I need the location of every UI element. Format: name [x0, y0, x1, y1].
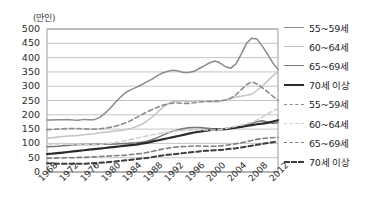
solid-line-icon [284, 27, 304, 28]
y-tick-label: 100 [14, 138, 40, 148]
legend-item-label: 60~64세 [309, 117, 349, 131]
line-chart: (만인) 050100150200250300350400450500 1968… [0, 0, 377, 211]
y-tick-label: 500 [14, 24, 40, 34]
solid-line-icon [284, 84, 304, 86]
solid-line-icon [284, 46, 304, 47]
legend-item[interactable]: 60~64세 [284, 37, 377, 56]
y-tick-label: 50 [14, 153, 40, 163]
legend-item[interactable]: 60~64세 [284, 114, 377, 133]
legend-item-label: 70세 이상 [309, 78, 350, 92]
dashed-line-icon [284, 161, 304, 163]
dashed-line-icon [284, 123, 304, 124]
legend-item[interactable]: 70세 이상 [284, 152, 377, 171]
legend-item[interactable]: 55~59세 [284, 95, 377, 114]
legend-item-label: 70세 이상 [309, 155, 350, 169]
y-tick-label: 350 [14, 67, 40, 77]
y-tick-label: 400 [14, 53, 40, 63]
solid-line-icon [284, 65, 304, 66]
y-tick-label: 250 [14, 96, 40, 106]
legend-item-label: 60~64세 [309, 40, 349, 54]
legend-item-label: 65~69세 [309, 136, 349, 150]
dashed-line-icon [284, 142, 304, 143]
legend-item-label: 55~59세 [309, 21, 349, 35]
legend-item-label: 65~69세 [309, 59, 349, 73]
legend-item[interactable]: 70세 이상 [284, 76, 377, 95]
y-tick-label: 300 [14, 81, 40, 91]
legend-item[interactable]: 65~69세 [284, 56, 377, 75]
y-tick-label: 200 [14, 110, 40, 120]
legend-item[interactable]: 65~69세 [284, 133, 377, 152]
legend-item[interactable]: 55~59세 [284, 18, 377, 37]
legend-item-label: 55~59세 [309, 97, 349, 111]
dashed-line-icon [284, 104, 304, 105]
y-tick-label: 150 [14, 124, 40, 134]
chart-legend: 55~59세60~64세65~69세70세 이상55~59세60~64세65~6… [284, 18, 377, 172]
y-tick-label: 450 [14, 38, 40, 48]
